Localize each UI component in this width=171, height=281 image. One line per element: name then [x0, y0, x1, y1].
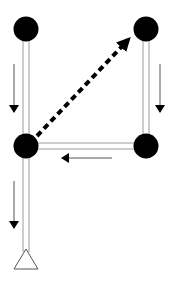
node-top-right	[134, 17, 159, 42]
rail-right	[143, 29, 149, 146]
dashed-arrow-diagonal	[37, 40, 128, 136]
node-middle-left	[14, 134, 39, 159]
rail-horizontal	[26, 143, 146, 149]
node-middle-right	[134, 134, 159, 159]
terminal-triangle-icon	[14, 249, 38, 269]
rail-left-upper	[23, 29, 29, 146]
flow-diagram	[0, 0, 171, 281]
node-top-left	[14, 17, 39, 42]
rail-left-lower	[23, 146, 29, 252]
